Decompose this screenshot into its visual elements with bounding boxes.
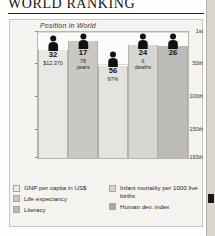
- chart-legend: GNP per capita in US$Life expectancyLite…: [9, 182, 203, 227]
- bar-figure: 1778years: [76, 33, 89, 70]
- person-icon: [47, 35, 59, 51]
- legend-label: Life expectancy: [24, 195, 67, 203]
- bar-rank-label: 24: [135, 49, 151, 58]
- page-body: WORLD RANKING Position in World 32$12,37…: [0, 0, 215, 236]
- legend-column-left: GNP per capita in US$Life expectancyLite…: [13, 184, 86, 217]
- y-axis-tick-label: 50th: [177, 60, 203, 66]
- bar-rank-label: 32: [43, 51, 63, 60]
- legend-item: Human dev. index: [109, 203, 203, 211]
- bar-figure: 26: [167, 33, 179, 58]
- legend-label: GNP per capita in US$: [24, 184, 86, 192]
- bar-detail-label: deaths: [135, 64, 151, 70]
- page-title: WORLD RANKING: [8, 0, 198, 12]
- bar-figure: 246deaths: [135, 33, 151, 70]
- gridline: [38, 32, 188, 33]
- legend-item: GNP per capita in US$: [13, 184, 86, 192]
- y-axis-tick-label: 100th: [177, 93, 203, 99]
- bar-detail-label: years: [76, 64, 89, 70]
- y-axis-tick-label: 193th: [177, 154, 203, 160]
- person-icon: [107, 51, 119, 67]
- chart-subtitle: Position in World: [40, 22, 96, 29]
- legend-item: Literacy: [13, 206, 86, 214]
- world-ranking-chart: Position in World 32$12,3701778years5697…: [9, 19, 203, 169]
- legend-label: Literacy: [24, 206, 46, 214]
- y-axis-tick-mark: [35, 96, 38, 97]
- title-divider: [8, 13, 204, 14]
- y-axis-tick-mark: [35, 31, 38, 32]
- y-axis-tick-label: 1st: [177, 28, 203, 34]
- legend-item: Life expectancy: [13, 195, 86, 203]
- y-axis-tick-label: 150th: [177, 126, 203, 132]
- person-icon: [77, 33, 89, 49]
- bar-detail-label: $12,370: [43, 60, 63, 66]
- person-icon: [137, 33, 149, 49]
- gridline: [38, 158, 188, 159]
- bar-rank-label: 17: [76, 49, 89, 58]
- legend-swatch: [13, 185, 20, 192]
- legend-label: Human dev. index: [120, 203, 169, 211]
- legend-item: Infant mortality per 1000 live births: [109, 184, 203, 199]
- legend-swatch: [13, 195, 20, 202]
- bar-figure: 32$12,370: [43, 35, 63, 66]
- person-icon: [167, 33, 179, 49]
- y-axis-tick-mark: [35, 129, 38, 130]
- legend-swatch: [109, 185, 116, 192]
- bar-figure: 5697%: [107, 51, 119, 82]
- edge-marker: [208, 194, 214, 203]
- legend-column-right: Infant mortality per 1000 live birthsHum…: [109, 184, 203, 214]
- legend-swatch: [109, 203, 116, 210]
- page-edge: [206, 0, 215, 236]
- legend-swatch: [13, 206, 20, 213]
- plot-area: 32$12,3701778years5697%246deaths26: [37, 31, 189, 159]
- legend-label: Infant mortality per 1000 live births: [120, 184, 203, 199]
- bar-rank-label: 26: [167, 49, 179, 58]
- chart-bar: [38, 50, 68, 158]
- y-axis-tick-mark: [35, 157, 38, 158]
- bar-rank-label: 56: [107, 67, 119, 76]
- bar-detail-label: 97%: [107, 76, 119, 82]
- y-axis-tick-mark: [35, 63, 38, 64]
